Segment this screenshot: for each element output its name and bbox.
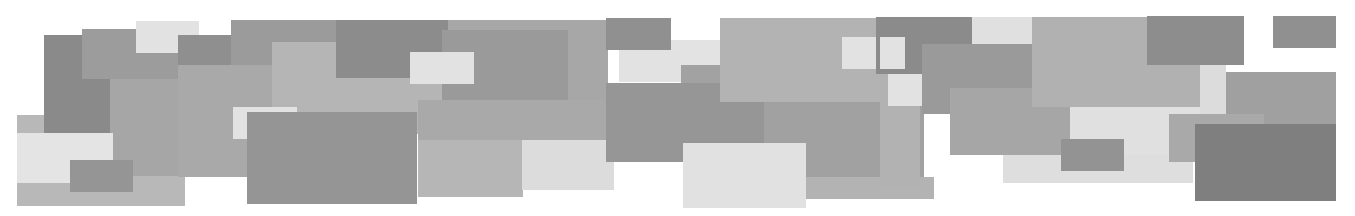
gray-rectangle — [442, 52, 474, 84]
gray-rectangle — [683, 143, 806, 208]
abstract-rectangle-composition — [0, 0, 1355, 216]
gray-rectangle — [522, 140, 614, 190]
gray-rectangle — [888, 74, 922, 106]
gray-rectangle — [606, 18, 671, 50]
gray-rectangle — [1200, 65, 1226, 115]
gray-rectangle — [681, 65, 721, 83]
gray-rectangle — [972, 17, 1032, 44]
gray-rectangle — [70, 160, 133, 192]
gray-rectangle — [247, 112, 417, 204]
gray-rectangle — [418, 100, 608, 140]
gray-rectangle — [1273, 16, 1336, 48]
gray-rectangle — [1195, 124, 1336, 201]
gray-rectangle — [418, 140, 523, 197]
gray-rectangle — [880, 37, 905, 69]
gray-rectangle — [1061, 139, 1124, 171]
gray-rectangle — [619, 50, 681, 82]
gray-rectangle — [1147, 16, 1244, 65]
